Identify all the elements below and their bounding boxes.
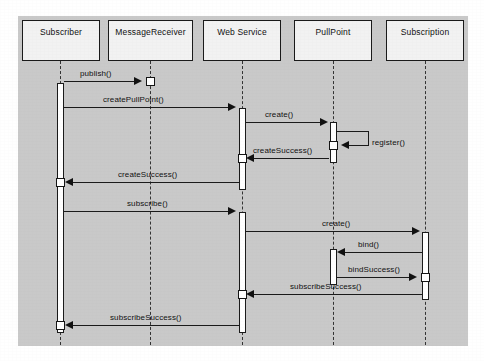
message-line-register-out bbox=[337, 131, 369, 132]
lifeline-pullpoint bbox=[333, 61, 334, 345]
arrowhead-right-create-subscription bbox=[412, 227, 420, 235]
message-label-createsuccess-ws: createSuccess() bbox=[253, 146, 312, 155]
message-line-register-turn bbox=[368, 131, 369, 145]
activation-bar-subscription-1 bbox=[422, 232, 429, 300]
message-line-createsuccess-ws bbox=[253, 158, 329, 159]
participant-box-webservice[interactable]: Web Service bbox=[203, 20, 281, 61]
message-label-create-subscription: create() bbox=[322, 219, 350, 228]
arrowhead-right-publish bbox=[134, 77, 142, 85]
message-label-bind: bind() bbox=[358, 240, 379, 249]
message-line-createpullpoint bbox=[64, 107, 230, 108]
participant-box-messagereceiver[interactable]: MessageReceiver bbox=[108, 20, 193, 61]
arrowhead-right-bindsuccess bbox=[409, 273, 417, 281]
participant-label-pullpoint: PullPoint bbox=[295, 27, 371, 37]
message-line-subscribesuccess-sub bbox=[72, 325, 239, 326]
message-line-publish bbox=[64, 81, 138, 82]
participant-label-subscriber: Subscriber bbox=[23, 27, 99, 37]
sequence-diagram-canvas: Subscriber MessageReceiver Web Service P… bbox=[0, 0, 484, 361]
participant-label-webservice: Web Service bbox=[204, 27, 280, 37]
receipt-marker-register bbox=[329, 141, 338, 150]
lifeline-subscription bbox=[425, 61, 426, 345]
message-line-subscribesuccess-ws bbox=[253, 294, 422, 295]
message-line-register-back bbox=[349, 145, 369, 146]
activation-bar-subscriber bbox=[57, 83, 64, 333]
message-label-subscribesuccess-sub: subscribeSuccess() bbox=[110, 313, 182, 322]
message-label-register: register() bbox=[372, 138, 405, 147]
arrowhead-right-create-pullpoint bbox=[320, 118, 328, 126]
arrowhead-left-bind bbox=[337, 248, 345, 256]
arrowhead-left-subscribesuccess-sub bbox=[65, 321, 73, 329]
receipt-marker-subscribesuccess-ws bbox=[238, 290, 247, 299]
receipt-marker-publish bbox=[146, 77, 155, 86]
message-line-subscribe bbox=[64, 211, 230, 212]
activation-bar-pullpoint-2 bbox=[330, 249, 337, 285]
message-line-bindsuccess bbox=[337, 277, 411, 278]
participant-box-pullpoint[interactable]: PullPoint bbox=[294, 20, 372, 61]
receipt-marker-subscribesuccess-sub bbox=[56, 321, 65, 330]
participant-label-subscription: Subscription bbox=[387, 27, 463, 37]
message-label-bindsuccess: bindSuccess() bbox=[348, 265, 400, 274]
message-label-createpullpoint: createPullPoint() bbox=[103, 95, 164, 104]
participant-label-messagereceiver: MessageReceiver bbox=[109, 27, 192, 37]
message-label-createsuccess-sub: createSuccess() bbox=[118, 170, 177, 179]
participant-box-subscriber[interactable]: Subscriber bbox=[22, 20, 100, 61]
arrowhead-left-register bbox=[341, 141, 349, 149]
message-label-create-pullpoint: create() bbox=[265, 110, 293, 119]
message-label-subscribe: subscribe() bbox=[127, 199, 168, 208]
arrowhead-right-subscribe bbox=[228, 207, 236, 215]
receipt-marker-createsuccess-ws bbox=[238, 154, 247, 163]
message-label-subscribesuccess-ws: subscribeSuccess() bbox=[290, 282, 362, 291]
message-line-create-pullpoint bbox=[246, 122, 322, 123]
receipt-marker-bindsuccess bbox=[421, 273, 430, 282]
arrowhead-left-createsuccess-sub bbox=[65, 178, 73, 186]
activation-bar-webservice-1 bbox=[239, 108, 246, 190]
arrowhead-right-createpullpoint bbox=[228, 103, 236, 111]
message-line-createsuccess-sub bbox=[72, 182, 239, 183]
arrowhead-left-subscribesuccess-ws bbox=[246, 290, 254, 298]
message-label-publish: publish() bbox=[80, 69, 112, 78]
participant-box-subscription[interactable]: Subscription bbox=[386, 20, 464, 61]
message-line-create-subscription bbox=[246, 231, 414, 232]
message-line-bind bbox=[344, 252, 422, 253]
activation-bar-webservice-2 bbox=[239, 212, 246, 333]
receipt-marker-createsuccess-sub bbox=[56, 178, 65, 187]
